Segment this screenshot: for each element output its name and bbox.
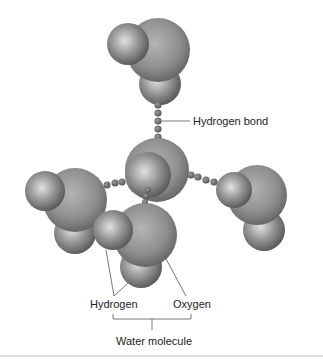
label-hydrogen-bond: Hydrogen bond xyxy=(193,115,268,127)
molecule-top xyxy=(107,18,190,105)
water-hydrogen-bond-diagram xyxy=(0,0,323,363)
hydrogen-atom xyxy=(25,171,65,211)
water-molecule-bracket xyxy=(113,314,191,330)
molecule-left xyxy=(25,168,107,254)
bottom-divider xyxy=(0,355,323,357)
hydrogen-atom xyxy=(93,210,133,250)
molecule-bottom xyxy=(93,203,177,288)
hydrogen-bond-right xyxy=(187,171,217,185)
hydrogen-atom xyxy=(107,23,149,65)
label-hydrogen: Hydrogen xyxy=(90,298,138,310)
molecule-center xyxy=(125,138,189,202)
label-water-molecule: Water molecule xyxy=(116,335,192,347)
hydrogen-bond-left xyxy=(104,179,126,189)
label-oxygen: Oxygen xyxy=(173,298,211,310)
hydrogen-bond-top xyxy=(154,101,161,140)
molecule-right xyxy=(216,165,287,251)
hydrogen-atom xyxy=(216,172,252,208)
